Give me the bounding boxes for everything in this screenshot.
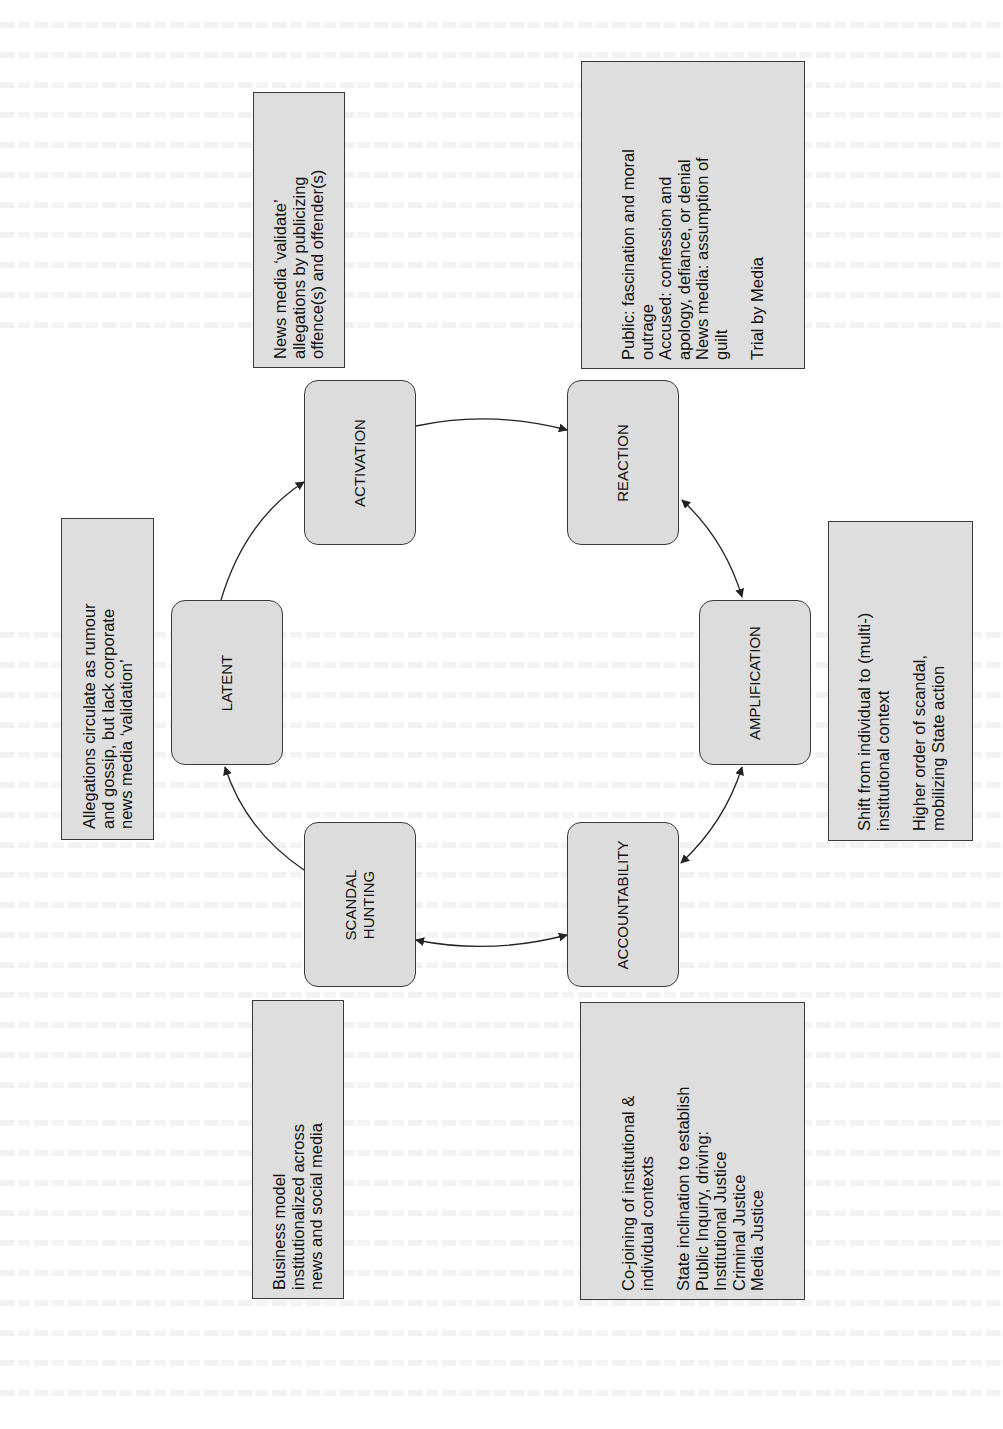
arrow-reaction-amplification xyxy=(682,500,742,597)
stage-label: AMPLIFICATION xyxy=(746,600,764,765)
stage-label: SCANDAL HUNTING xyxy=(342,822,378,987)
stage-latent: LATENT xyxy=(171,600,283,765)
note-accountability: Co-joining of institutional & individual… xyxy=(580,1002,805,1300)
arrow-latent-to-activation xyxy=(221,482,304,600)
note-reaction: Public: fascination and moral outrage Ac… xyxy=(581,61,805,369)
stage-reaction: REACTION xyxy=(567,380,679,545)
stage-activation: ACTIVATION xyxy=(304,380,416,545)
note-text: Shift from individual to (multi-) instit… xyxy=(855,531,947,831)
stage-label: LATENT xyxy=(218,600,236,765)
stage-amplification: AMPLIFICATION xyxy=(699,600,811,765)
stage-label: ACCOUNTABILITY xyxy=(614,822,632,987)
arrow-amplification-accountability xyxy=(681,767,742,863)
stage-scandal-hunting: SCANDAL HUNTING xyxy=(304,822,416,987)
stage-label: ACTIVATION xyxy=(351,380,369,545)
note-scandal-hunting: Business model institutionalized across … xyxy=(252,1000,344,1299)
note-text: News media ‘validate’ allegations by pub… xyxy=(271,101,327,359)
note-text: Public: fascination and moral outrage Ac… xyxy=(619,70,767,360)
note-activation: News media ‘validate’ allegations by pub… xyxy=(253,92,345,368)
note-latent: Allegations circulate as rumour and goss… xyxy=(61,518,154,840)
stage-accountability: ACCOUNTABILITY xyxy=(567,822,679,987)
arrow-activation-to-reaction xyxy=(416,419,567,430)
note-text: Co-joining of institutional & individual… xyxy=(619,1011,767,1291)
arrow-scandal-to-latent xyxy=(225,767,304,870)
note-text: Allegations circulate as rumour and goss… xyxy=(80,529,136,829)
note-amplification: Shift from individual to (multi-) instit… xyxy=(828,521,973,841)
stage-label: REACTION xyxy=(614,380,632,545)
arrow-accountability-scandal xyxy=(416,935,567,946)
note-text: Business model institutionalized across … xyxy=(270,1010,326,1290)
